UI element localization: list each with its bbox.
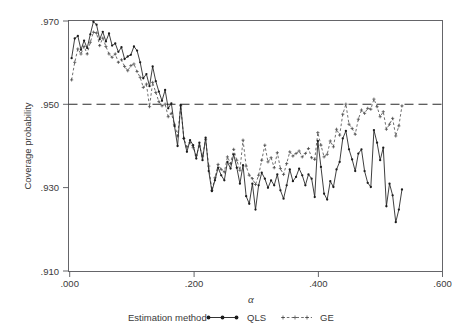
circle-marker-icon: [276, 173, 278, 175]
circle-marker-icon: [254, 208, 256, 210]
circle-marker-icon: [167, 107, 169, 109]
circle-marker-icon: [363, 170, 365, 172]
circle-marker-icon: [180, 104, 182, 106]
circle-marker-icon: [245, 195, 247, 197]
y-axis-title: Coverage probability: [22, 102, 33, 189]
circle-marker-icon: [70, 57, 72, 59]
circle-marker-icon: [335, 168, 337, 170]
circle-marker-icon: [310, 177, 312, 179]
legend-title: Estimation method: [128, 312, 207, 323]
circle-marker-icon: [170, 102, 172, 104]
circle-marker-icon: [92, 21, 94, 23]
circle-marker-icon: [398, 208, 400, 210]
chart-figure: .970 .950 .930 .910 .000 .200 .400 .600 …: [0, 0, 467, 335]
circle-marker-icon: [279, 189, 281, 191]
x-tick-label: .400: [309, 278, 328, 289]
circle-marker-icon: [80, 49, 82, 51]
circle-marker-icon: [99, 38, 101, 40]
circle-marker-icon: [95, 24, 97, 26]
circle-marker-icon: [323, 193, 325, 195]
circle-marker-icon: [357, 152, 359, 154]
circle-marker-icon: [295, 176, 297, 178]
circle-marker-icon: [382, 147, 384, 149]
circle-marker-icon: [286, 184, 288, 186]
circle-marker-icon: [261, 172, 263, 174]
circle-marker-icon: [89, 33, 91, 35]
y-tick-label: .930: [41, 182, 60, 193]
circle-marker-icon: [257, 184, 259, 186]
circle-marker-icon: [155, 80, 157, 82]
circle-marker-icon: [236, 167, 238, 169]
circle-marker-icon: [345, 130, 347, 132]
x-tick-label: .200: [185, 278, 204, 289]
circle-marker-icon: [267, 187, 269, 189]
circle-marker-icon: [74, 37, 76, 39]
circle-marker-icon: [289, 168, 291, 170]
circle-marker-icon: [360, 148, 362, 150]
circle-marker-icon: [326, 198, 328, 200]
x-axis-title: α: [248, 293, 254, 305]
circle-marker-icon: [77, 35, 79, 37]
circle-marker-icon: [186, 151, 188, 153]
circle-marker-icon: [367, 182, 369, 184]
circle-marker-icon: [204, 136, 206, 138]
circle-marker-icon: [220, 174, 222, 176]
circle-marker-icon: [148, 85, 150, 87]
circle-marker-icon: [270, 179, 272, 181]
circle-marker-icon: [351, 158, 353, 160]
legend-label-qls: QLS: [247, 312, 266, 323]
circle-marker-icon: [142, 77, 144, 79]
circle-marker-icon: [176, 145, 178, 147]
circle-marker-icon: [229, 167, 231, 169]
circle-marker-icon: [208, 170, 210, 172]
x-tick-label: .600: [433, 278, 452, 289]
circle-marker-icon: [214, 179, 216, 181]
circle-marker-icon: [152, 65, 154, 67]
circle-marker-icon: [239, 183, 241, 185]
circle-marker-icon: [136, 49, 138, 51]
circle-marker-icon: [332, 186, 334, 188]
legend-label-ge: GE: [320, 312, 334, 323]
circle-marker-icon: [217, 167, 219, 169]
circle-marker-icon: [354, 170, 356, 172]
circle-marker-icon: [201, 159, 203, 161]
circle-marker-icon: [379, 159, 381, 161]
circle-marker-icon: [211, 190, 213, 192]
circle-marker-icon: [102, 31, 104, 33]
y-tick-label: .950: [41, 99, 60, 110]
circle-marker-icon: [401, 188, 403, 190]
circle-marker-icon: [192, 144, 194, 146]
circle-marker-icon: [304, 184, 306, 186]
circle-marker-icon: [301, 174, 303, 176]
legend-marker-circle-icon: [207, 316, 211, 320]
circle-marker-icon: [242, 164, 244, 166]
circle-marker-icon: [298, 167, 300, 169]
circle-marker-icon: [123, 58, 125, 60]
circle-marker-icon: [108, 32, 110, 34]
circle-marker-icon: [329, 180, 331, 182]
circle-marker-icon: [264, 177, 266, 179]
coverage-probability-chart: .970 .950 .930 .910 .000 .200 .400 .600 …: [0, 0, 467, 335]
circle-marker-icon: [385, 205, 387, 207]
circle-marker-icon: [314, 196, 316, 198]
circle-marker-icon: [127, 55, 129, 57]
circle-marker-icon: [292, 180, 294, 182]
circle-marker-icon: [105, 40, 107, 42]
circle-marker-icon: [164, 89, 166, 91]
circle-marker-icon: [183, 137, 185, 139]
y-tick-label: .910: [41, 266, 60, 277]
circle-marker-icon: [248, 203, 250, 205]
circle-marker-icon: [373, 129, 375, 131]
circle-marker-icon: [251, 183, 253, 185]
circle-marker-icon: [173, 125, 175, 127]
circle-marker-icon: [376, 142, 378, 144]
circle-marker-icon: [395, 221, 397, 223]
circle-marker-icon: [114, 42, 116, 44]
circle-marker-icon: [117, 51, 119, 53]
circle-marker-icon: [223, 179, 225, 181]
circle-marker-icon: [317, 140, 319, 142]
circle-marker-icon: [161, 100, 163, 102]
circle-marker-icon: [120, 46, 122, 48]
circle-marker-icon: [370, 186, 372, 188]
circle-marker-icon: [130, 54, 132, 56]
